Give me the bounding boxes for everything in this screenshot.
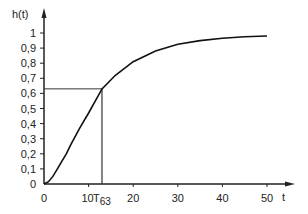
y-tick-label: 0 (30, 178, 36, 190)
x-axis (44, 182, 295, 187)
y-ticks: 00,10,20,30,40,50,60,70,80,91 (21, 27, 44, 190)
y-axis-label: h(t) (12, 8, 29, 20)
x-axis-label: t (282, 191, 285, 203)
response-curve (44, 36, 267, 184)
y-tick-label: 0,5 (21, 103, 36, 115)
x-tick-label: 10 (81, 192, 93, 204)
y-axis-arrow-icon (42, 8, 47, 18)
x-tick-label: 40 (216, 192, 228, 204)
y-tick-label: 0,7 (21, 72, 36, 84)
y-tick-label: 0,1 (21, 163, 36, 175)
x-axis-arrow-icon (285, 182, 295, 187)
y-tick-label: 0,3 (21, 133, 36, 145)
y-axis (42, 8, 47, 184)
x-tick-label: 20 (127, 192, 139, 204)
y-tick-label: 0,8 (21, 57, 36, 69)
x-tick-label: 30 (172, 192, 184, 204)
y-tick-label: 0,6 (21, 87, 36, 99)
y-tick-label: 0,9 (21, 42, 36, 54)
step-response-chart: 00,10,20,30,40,50,60,70,80,91 0102030405… (0, 0, 308, 214)
t63-label: T63 (93, 192, 111, 207)
y-tick-label: 1 (30, 27, 36, 39)
x-ticks: 01020304050 (41, 184, 273, 204)
y-tick-label: 0,4 (21, 118, 36, 130)
x-tick-label: 50 (261, 192, 273, 204)
x-tick-label: 0 (41, 192, 47, 204)
y-tick-label: 0,2 (21, 148, 36, 160)
